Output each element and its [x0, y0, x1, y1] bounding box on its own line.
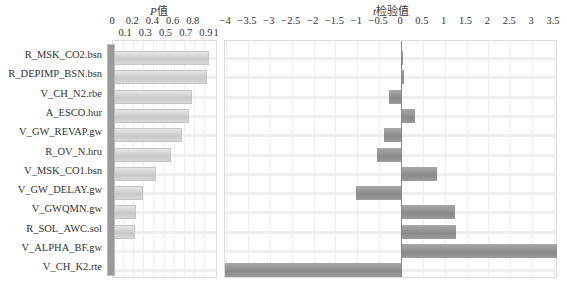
parameter-label: V_CH_N2.rbe [40, 88, 102, 99]
parameter-label: R_OV_N.hru [45, 146, 102, 157]
p-tick: 0.6 [166, 15, 179, 26]
t-value-bar [401, 244, 557, 258]
p-tick: 0.8 [186, 15, 199, 26]
t-value-bar [401, 109, 415, 123]
p-tick: 1 [213, 27, 218, 38]
grid-line [225, 211, 556, 214]
parameter-labels: R_MSK_CO2.bsnR_DEPIMP_BSN.bsnV_CH_N2.rbe… [0, 0, 102, 289]
p-tick: 0.3 [139, 27, 152, 38]
t-tick: −4 [220, 15, 231, 26]
grid-line [225, 57, 556, 60]
grid-line [113, 269, 216, 272]
t-tick: −2 [307, 15, 318, 26]
p-value-bar [113, 225, 135, 239]
p-value-bar [113, 70, 207, 84]
parameter-label: V_MSK_CO1.bsn [24, 165, 102, 176]
t-tick: −1.5 [325, 15, 344, 26]
t-tick: 3 [528, 15, 533, 26]
p-value-bar [113, 186, 143, 200]
t-value-bar [401, 167, 437, 181]
parameter-label: V_GW_REVAP.gw [19, 126, 102, 137]
t-value-bar [225, 263, 402, 277]
p-value-bar [113, 109, 189, 123]
p-value-bar [113, 51, 209, 65]
t-tick: 3.5 [546, 15, 559, 26]
t-tick: −1 [351, 15, 362, 26]
t-tick: 0.5 [415, 15, 428, 26]
p-tick: 0.2 [126, 15, 139, 26]
t-tick: 2 [485, 15, 490, 26]
t-tick: −3.5 [238, 15, 257, 26]
p-scrollbar[interactable] [107, 44, 115, 276]
parameter-label: A_ESCO.hur [46, 107, 102, 118]
parameter-label: R_MSK_CO2.bsn [25, 49, 102, 60]
parameter-label: R_DEPIMP_BSN.bsn [8, 68, 102, 79]
grid-line [113, 250, 216, 253]
p-value-bar [113, 128, 182, 142]
p-tick: 0.9 [199, 27, 212, 38]
p-tick: 0.1 [119, 27, 132, 38]
p-tick: 0 [109, 15, 114, 26]
p-value-bar [113, 205, 136, 219]
parameter-label: V_ALPHA_BF.gw [21, 242, 102, 253]
grid-line [225, 231, 556, 234]
p-tick: 0.4 [146, 15, 159, 26]
p-tick: 0.5 [159, 27, 172, 38]
t-value-bar [356, 186, 401, 200]
t-tick: −2.5 [281, 15, 300, 26]
p-value-plot [112, 40, 217, 278]
t-value-bar [401, 205, 455, 219]
t-tick: −0.5 [369, 15, 388, 26]
t-value-bar [389, 90, 401, 104]
parameter-label: V_GW_DELAY.gw [18, 184, 102, 195]
p-value-bar [113, 90, 192, 104]
grid-line [225, 173, 556, 176]
t-value-bar [377, 148, 401, 162]
t-value-bar [384, 128, 401, 142]
parameter-label: V_CH_K2.rte [43, 261, 102, 272]
parameter-label: V_GWQMN.gw [32, 203, 102, 214]
parameter-label: R_SOL_AWC.sol [26, 223, 102, 234]
t-tick: 0 [397, 15, 402, 26]
grid-line [225, 115, 556, 118]
grid-line [225, 76, 556, 79]
t-tick: 2.5 [503, 15, 516, 26]
p-value-bar [113, 167, 156, 181]
t-value-bar [401, 225, 456, 239]
t-tick: 1 [441, 15, 446, 26]
zero-line [401, 41, 402, 277]
p-value-bar [113, 148, 171, 162]
p-tick: 0.7 [179, 27, 192, 38]
t-tick: 1.5 [459, 15, 472, 26]
t-tick: −3 [263, 15, 274, 26]
t-value-plot [224, 40, 557, 278]
